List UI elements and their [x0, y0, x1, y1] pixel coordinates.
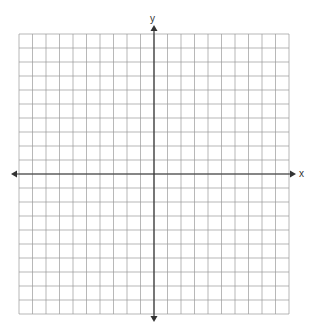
grid-canvas [0, 0, 319, 330]
axes [11, 25, 296, 322]
y-axis-label: y [150, 14, 155, 24]
coordinate-plane: y x [0, 0, 319, 330]
y-axis-negative-arrow-icon [151, 316, 158, 322]
x-axis-negative-arrow-icon [11, 171, 17, 178]
x-axis-positive-arrow-icon [290, 171, 296, 178]
x-axis-label: x [299, 169, 304, 179]
y-axis-positive-arrow-icon [151, 25, 158, 31]
